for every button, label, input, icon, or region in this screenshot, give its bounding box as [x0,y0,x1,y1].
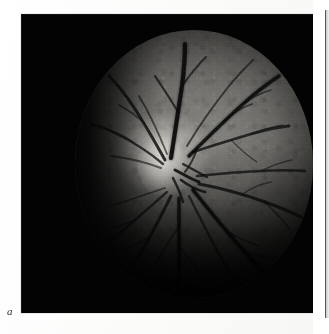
document-page: a [0,0,329,334]
optic-disc [137,134,193,196]
retinal-texture [75,30,313,298]
print-grain [75,30,313,298]
nasal-edge-falloff [75,30,161,298]
illumination-vignette [75,30,313,298]
adjacent-panel-hairline [325,10,326,318]
retinal-fundus-image [75,30,313,298]
retinal-vessel-tree [75,30,313,298]
figure-label-a: a [7,305,13,317]
figure-panel-a [21,14,313,313]
